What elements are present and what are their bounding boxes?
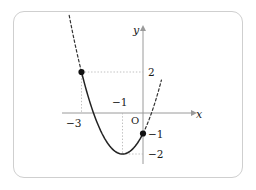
y-axis-label: y <box>132 24 140 37</box>
curve-dashed-left <box>69 15 81 72</box>
parabola-plot: −3 −1 2 −1 −2 O x y <box>0 0 256 190</box>
point-0-neg1 <box>140 130 146 136</box>
curve-dashed-right <box>143 80 161 134</box>
x-tick-label-neg1: −1 <box>112 96 127 108</box>
y-tick-label-neg1: −1 <box>148 128 163 140</box>
y-tick-label-neg2: −2 <box>148 148 163 160</box>
y-tick-label-2: 2 <box>148 66 155 78</box>
y-axis-arrow-icon <box>140 25 146 31</box>
x-tick-label-neg3: −3 <box>66 117 81 129</box>
figure-root: −3 −1 2 −1 −2 O x y <box>0 0 256 190</box>
point-neg3-2 <box>78 69 84 75</box>
origin-label: O <box>131 115 139 126</box>
x-axis-label: x <box>196 108 203 121</box>
